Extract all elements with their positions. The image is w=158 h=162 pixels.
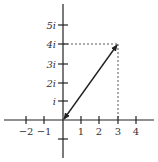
x-label-3: 3 <box>115 126 121 137</box>
x-label-neg2: −2 <box>19 126 34 137</box>
y-label-i: i <box>53 96 56 107</box>
y-label-5i: 5i <box>46 20 56 31</box>
x-label-1: 1 <box>78 126 84 137</box>
y-label-2i: 2i <box>45 78 56 89</box>
y-label-4i: 4i <box>45 39 56 50</box>
x-label-2: 2 <box>96 126 102 137</box>
x-label-neg1: −1 <box>37 126 52 137</box>
x-label-4: 4 <box>133 126 139 137</box>
vector-arrow-3-plus-4i <box>64 45 117 119</box>
y-label-3i: 3i <box>46 59 56 70</box>
complex-plane-diagram: −2 −1 1 2 3 4 i 2i 3i 4i 5i <box>0 0 158 162</box>
